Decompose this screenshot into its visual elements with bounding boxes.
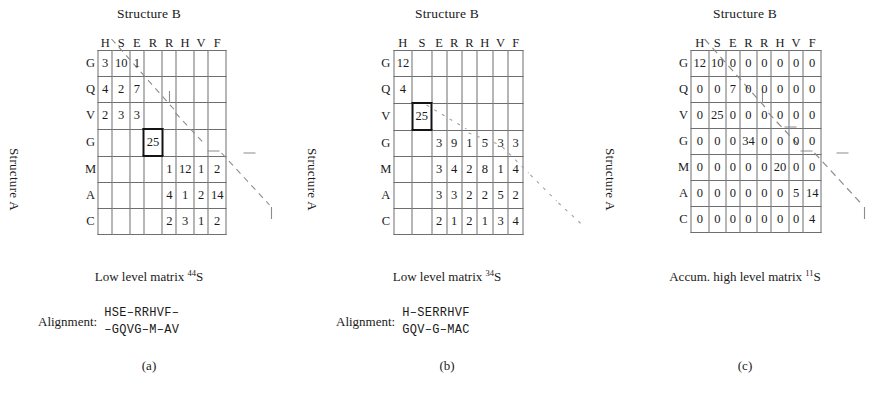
panel-c-col-header-row: H S E R R H V F xyxy=(677,33,822,51)
matrix-cell: 0 xyxy=(803,77,821,103)
matrix-cell: 0 xyxy=(757,51,771,77)
matrix-cell: 34 xyxy=(740,129,758,155)
table-row: V 2 3 3 xyxy=(84,103,227,130)
matrix-cell xyxy=(447,103,462,130)
panel-a-caption-text: Low level matrix xyxy=(95,269,185,284)
matrix-cell xyxy=(477,77,493,104)
table-row: V 25 xyxy=(379,103,524,130)
matrix-cell: 4 xyxy=(162,183,176,209)
matrix-cell: 0 xyxy=(691,181,709,207)
panel-a: Structure B Structure A xyxy=(0,0,298,398)
matrix-cell: 1 xyxy=(447,209,462,235)
matrix-cell: 20 xyxy=(771,155,789,181)
row-header: C xyxy=(84,209,98,235)
matrix-cell: 0 xyxy=(757,155,771,181)
panel-c-structure-b-label: Structure B xyxy=(596,6,894,22)
matrix-cell xyxy=(412,157,431,183)
table-row: Q 0 0 7 0 0 0 0 0 xyxy=(677,77,822,103)
matrix-cell: 2 xyxy=(98,103,112,130)
matrix-cell: 1 xyxy=(194,209,208,235)
matrix-cell xyxy=(112,156,130,183)
panel-c-caption: Accum. high level matrix 11S xyxy=(596,268,894,285)
matrix-cell: 0 xyxy=(803,155,821,181)
row-header: Q xyxy=(84,77,98,103)
col-header: F xyxy=(208,33,226,51)
col-header: H xyxy=(691,33,709,51)
matrix-cell xyxy=(176,103,194,130)
panel-a-col-header-row: H S E R R H V F xyxy=(84,33,227,51)
matrix-cell xyxy=(144,209,163,235)
alignment-sequence-bottom: GQV–G–MAC xyxy=(402,322,470,339)
panel-b-alignment-sequences: H–SERRHVF GQV–G–MAC xyxy=(402,305,470,338)
matrix-cell: 0 xyxy=(803,129,821,155)
matrix-cell: 0 xyxy=(709,129,727,155)
matrix-cell: 3 xyxy=(176,209,194,235)
row-header: G xyxy=(677,129,692,155)
table-row: A 3 3 2 2 5 2 xyxy=(379,183,524,209)
matrix-cell: 0 xyxy=(789,207,804,233)
table-row: G 3 10 1 xyxy=(84,51,227,77)
matrix-cell xyxy=(394,130,413,157)
matrix-cell: 1 xyxy=(176,183,194,209)
matrix-cell: 14 xyxy=(803,181,821,207)
panel-b: Structure B Structure A H S xyxy=(298,0,596,398)
matrix-cell xyxy=(493,103,509,130)
matrix-cell: 1 xyxy=(162,156,176,183)
col-header: R xyxy=(162,33,176,51)
panel-b-alignment: Alignment: H–SERRHVF GQV–G–MAC xyxy=(336,305,470,338)
matrix-cell: 0 xyxy=(691,207,709,233)
matrix-cell-highlighted: 25 xyxy=(412,103,431,130)
matrix-cell xyxy=(493,51,509,77)
table-row: M 1 12 1 2 xyxy=(84,156,227,183)
matrix-cell: 0 xyxy=(691,103,709,129)
figure-three-panel-matrices: Structure B Structure A xyxy=(0,0,895,398)
matrix-cell xyxy=(477,51,493,77)
matrix-cell: 0 xyxy=(771,103,789,129)
matrix-cell: 0 xyxy=(789,129,804,155)
row-header: M xyxy=(677,155,692,181)
matrix-cell: 0 xyxy=(803,51,821,77)
matrix-cell: 0 xyxy=(757,77,771,103)
col-header: S xyxy=(709,33,727,51)
matrix-cell xyxy=(176,129,194,156)
panel-b-table: H S E R R H V F G 12 xyxy=(379,33,524,235)
matrix-cell: 4 xyxy=(98,77,112,103)
matrix-cell: 14 xyxy=(208,183,226,209)
panel-a-alignment-sequences: HSE–RRHVF– –GQVG–M–AV xyxy=(104,305,179,338)
row-header: G xyxy=(677,51,692,77)
matrix-cell xyxy=(144,156,163,183)
matrix-cell xyxy=(432,51,447,77)
alignment-sequence-top: HSE–RRHVF– xyxy=(104,305,179,322)
matrix-cell xyxy=(412,209,431,235)
matrix-cell: 3 xyxy=(112,103,130,130)
matrix-cell: 0 xyxy=(691,155,709,181)
matrix-cell: 0 xyxy=(771,207,789,233)
col-header: E xyxy=(432,33,447,51)
table-row: G 25 xyxy=(84,129,227,156)
matrix-cell: 0 xyxy=(789,77,804,103)
matrix-cell: 7 xyxy=(726,77,740,103)
matrix-cell: 5 xyxy=(477,130,493,157)
matrix-cell: 0 xyxy=(789,103,804,129)
matrix-cell xyxy=(208,129,226,156)
matrix-cell xyxy=(144,103,163,130)
panel-b-caption-text: Low level matrix xyxy=(393,269,483,284)
col-header: R xyxy=(462,33,477,51)
matrix-cell xyxy=(394,157,413,183)
matrix-cell: 3 xyxy=(447,183,462,209)
panel-a-table: H S E R R H V F G 3 10 1 xyxy=(84,33,227,235)
matrix-cell xyxy=(162,77,176,103)
matrix-cell xyxy=(208,77,226,103)
panel-a-corner xyxy=(84,33,98,51)
matrix-cell xyxy=(112,129,130,156)
matrix-cell: 0 xyxy=(803,103,821,129)
panel-a-alignment-label: Alignment: xyxy=(38,314,97,330)
matrix-cell: 2 xyxy=(112,77,130,103)
matrix-cell xyxy=(477,103,493,130)
table-row: Q 4 2 7 xyxy=(84,77,227,103)
panel-a-caption-symbol: S xyxy=(196,269,203,284)
table-row: G 3 9 1 5 3 3 xyxy=(379,130,524,157)
col-header: V xyxy=(789,33,804,51)
row-header: A xyxy=(677,181,692,207)
matrix-cell: 0 xyxy=(726,129,740,155)
